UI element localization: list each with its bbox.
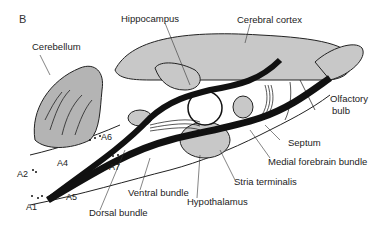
- label-hippocampus: Hippocampus: [121, 14, 179, 24]
- label-olfactory-bulb-1: Olfactory: [330, 94, 368, 104]
- septum-region: [233, 96, 253, 118]
- label-a1: A1: [26, 203, 37, 212]
- label-a5: A5: [66, 193, 77, 202]
- brain-diagram: [0, 0, 382, 226]
- label-medial-forebrain-bundle: Medial forebrain bundle: [268, 157, 367, 167]
- label-a2: A2: [17, 170, 28, 179]
- panel-label: B: [19, 14, 26, 25]
- label-stria-terminalis: Stria terminalis: [234, 177, 297, 187]
- label-cerebral-cortex: Cerebral cortex: [237, 15, 302, 25]
- label-olfactory-bulb-2: bulb: [332, 106, 350, 116]
- label-a6: A6: [101, 133, 112, 142]
- label-ventral-bundle: Ventral bundle: [128, 188, 189, 198]
- label-a4: A4: [57, 159, 68, 168]
- label-hypothalamus: Hypothalamus: [187, 197, 248, 207]
- cerebral-cortex: [115, 34, 352, 80]
- label-dorsal-bundle: Dorsal bundle: [89, 208, 148, 218]
- cerebellum: [34, 66, 102, 147]
- label-cerebellum: Cerebellum: [32, 42, 81, 52]
- label-a7: A7: [109, 163, 120, 172]
- label-septum: Septum: [288, 138, 321, 148]
